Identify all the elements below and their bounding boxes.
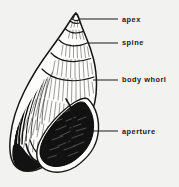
label-aperture: aperture (122, 128, 156, 135)
shell-anatomy-figure: apex spine body whorl aperture (0, 0, 179, 187)
shell-illustration (0, 0, 179, 187)
label-body-whorl: body whorl (122, 76, 166, 83)
label-spine: spine (122, 39, 144, 46)
label-apex: apex (122, 16, 141, 23)
